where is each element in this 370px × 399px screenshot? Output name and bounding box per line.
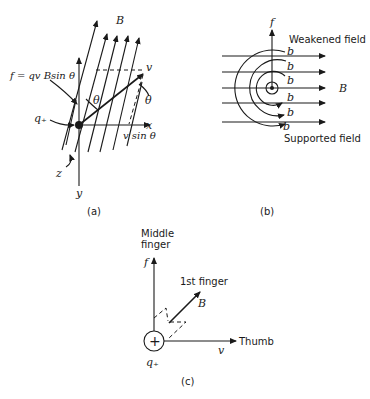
caption-a: (a) <box>87 206 101 217</box>
label-first-finger: 1st finger <box>180 276 229 287</box>
label-z-axis: z <box>55 167 62 180</box>
label-middle-line1: Middle <box>141 228 174 239</box>
label-charge: q₊ <box>146 356 159 369</box>
panel-a: B f = qv Bsin θ q₊ v θ θ x v sin θ z y (… <box>9 14 156 217</box>
label-force: f <box>269 16 276 29</box>
label-b-5: b <box>287 106 294 119</box>
label-velocity: v <box>146 61 153 74</box>
label-force: f <box>143 256 150 269</box>
label-b-1: b <box>287 45 294 58</box>
label-y-axis: y <box>75 187 83 200</box>
caption-c: (c) <box>181 376 194 387</box>
label-b-field: B <box>338 82 347 95</box>
label-b-3: b <box>287 74 294 87</box>
label-weakened-field: Weakened field <box>289 34 366 45</box>
label-b-field: B <box>115 14 124 27</box>
caption-b: (b) <box>260 206 274 217</box>
label-b-field: B <box>197 297 206 310</box>
label-b-4: b <box>287 91 294 104</box>
label-middle-line2: finger <box>141 239 171 250</box>
label-force-eq: f = qv Bsin θ <box>9 70 75 81</box>
label-thumb: Thumb <box>238 336 274 347</box>
label-theta-1: θ <box>93 94 100 107</box>
charge-dot <box>75 121 83 129</box>
label-velocity: v <box>218 344 225 357</box>
label-charge: q₊ <box>34 112 47 125</box>
panel-b: f Weakened field b b b b b b B Supported… <box>222 16 366 217</box>
label-theta-2: θ <box>145 94 152 107</box>
label-b-2: b <box>287 60 294 73</box>
label-component: v sin θ <box>123 130 156 141</box>
panel-c: + Middle finger f 1st finger B Thumb v q… <box>141 228 274 387</box>
label-b-6: b <box>283 120 290 133</box>
conductor-dot <box>270 86 274 90</box>
figure-canvas: B f = qv Bsin θ q₊ v θ θ x v sin θ z y (… <box>0 0 370 399</box>
plus-sign: + <box>149 333 161 349</box>
label-supported-field: Supported field <box>284 133 361 144</box>
field-arrow <box>169 292 200 323</box>
